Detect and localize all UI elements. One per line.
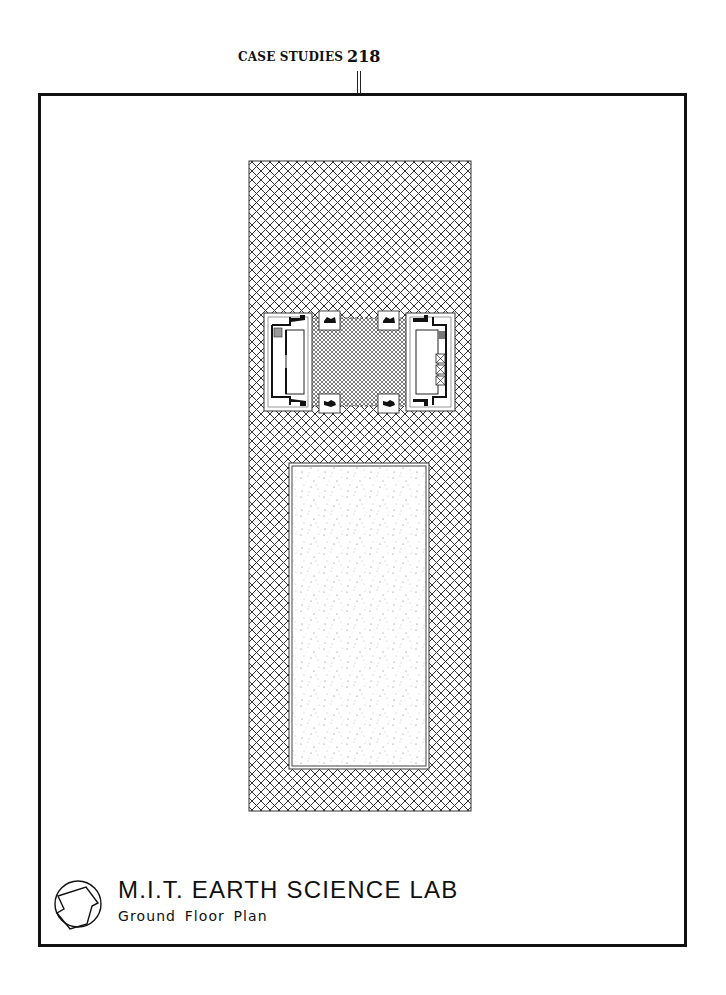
west-core (264, 313, 312, 411)
drawing-title: M.I.T. EARTH SCIENCE LAB (118, 876, 458, 904)
circle-pentagon-logo-icon (55, 881, 101, 929)
building-footprint (264, 311, 455, 413)
drawing-subtitle: Ground Floor Plan (118, 908, 268, 924)
east-core (406, 313, 455, 411)
stipple-court (289, 463, 429, 769)
floor-plan-drawing (0, 0, 726, 995)
